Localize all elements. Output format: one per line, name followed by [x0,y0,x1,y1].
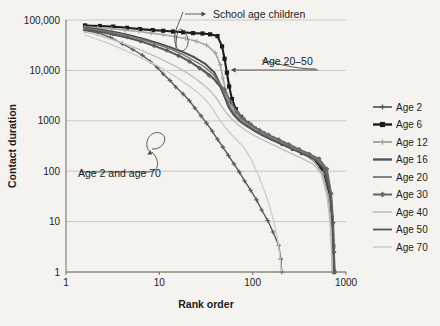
annotation-school-age-children: School age children [213,8,305,20]
legend-label: Age 30 [396,189,428,200]
data-point [225,71,229,75]
y-tick-label-10,000: 10,000 [29,65,60,76]
data-point [208,32,212,36]
x-axis-title: Rank order [178,298,233,310]
legend-label: Age 16 [396,154,428,165]
data-point [191,31,195,35]
data-point [171,29,175,33]
legend-label: Age 12 [396,137,428,148]
data-point [215,34,219,38]
chart-legend: Age 2Age 6Age 12Age 16Age 20Age 30Age 40… [373,102,428,253]
y-tick-label-1000: 1000 [38,115,61,126]
data-point [227,84,231,88]
chart-figure: School age childrenAge 20–50Age 2 and ag… [0,0,440,326]
data-point [220,44,224,48]
x-tick-label-100: 100 [244,277,261,288]
data-point [222,57,226,61]
legend-label: Age 50 [396,224,428,235]
data-point [200,31,204,35]
legend-label: Age 70 [396,242,428,253]
y-tick-label-100,000: 100,000 [24,15,61,26]
legend-marker-swatch [380,122,385,127]
y-tick-label-10: 10 [49,216,61,227]
data-point [161,29,165,33]
x-tick-label-10: 10 [154,277,166,288]
y-axis-title: Contact duration [6,104,18,188]
legend-label: Age 20 [396,172,428,183]
legend-label: Age 40 [396,207,428,218]
y-tick-label-100: 100 [43,166,60,177]
legend-label: Age 6 [396,119,423,130]
annotation-age-20-50: Age 20–50 [262,55,313,67]
x-tick-label-1: 1 [63,277,69,288]
contact-duration-rank-order-chart: School age childrenAge 20–50Age 2 and ag… [0,0,440,326]
x-tick-label-1000: 1000 [335,277,358,288]
y-tick-label-1: 1 [54,267,60,278]
legend-label: Age 2 [396,102,423,113]
annotation-age-2-and-age-70: Age 2 and age 70 [78,167,161,179]
